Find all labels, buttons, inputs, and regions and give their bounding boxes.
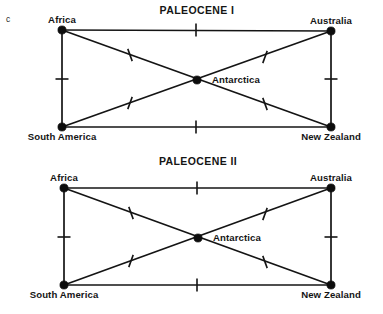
panel-paleocene-2 xyxy=(58,182,338,292)
node-dot-africa[interactable] xyxy=(60,184,68,192)
figure-root: c PALEOCENE IAfricaAustraliaSouth Americ… xyxy=(0,0,383,314)
tick-paleocene-1-tick-diag-upright xyxy=(263,51,267,63)
node-label-australia-paleocene-2: Australia xyxy=(310,172,352,183)
node-dot-africa[interactable] xyxy=(58,26,66,34)
node-dot-australia[interactable] xyxy=(327,184,335,192)
node-dot-new-zealand[interactable] xyxy=(327,123,335,131)
node-dot-antarctica[interactable] xyxy=(193,76,201,84)
node-dot-south-america[interactable] xyxy=(58,123,66,131)
node-label-antarctica-paleocene-1: Antarctica xyxy=(212,74,260,85)
node-label-antarctica-paleocene-2: Antarctica xyxy=(213,232,261,243)
panel-title-paleocene-2: PALEOCENE II xyxy=(159,155,237,167)
node-label-africa-paleocene-2: Africa xyxy=(50,172,78,183)
node-dot-antarctica[interactable] xyxy=(194,234,202,242)
panel-paleocene-1 xyxy=(56,24,338,134)
panel-title-paleocene-1: PALEOCENE I xyxy=(160,4,235,16)
node-dot-new-zealand[interactable] xyxy=(327,281,335,289)
node-label-australia-paleocene-1: Australia xyxy=(310,15,352,26)
node-label-south-america-paleocene-1: South America xyxy=(28,131,97,142)
node-dot-south-america[interactable] xyxy=(60,281,68,289)
node-label-south-america-paleocene-2: South America xyxy=(30,289,99,300)
node-label-new-zealand-paleocene-1: New Zealand xyxy=(301,131,361,142)
tick-paleocene-2-tick-diag-upright xyxy=(263,208,267,220)
node-label-new-zealand-paleocene-2: New Zealand xyxy=(301,289,361,300)
node-label-africa-paleocene-1: Africa xyxy=(48,14,76,25)
node-dot-australia[interactable] xyxy=(327,27,335,35)
